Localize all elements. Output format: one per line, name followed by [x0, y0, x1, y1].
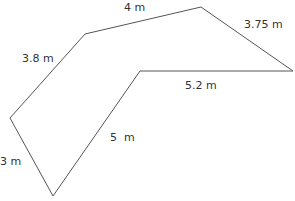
polygon-diagram: 4 m 3.75 m 3.8 m 5.2 m 5 m 3 m: [0, 0, 295, 201]
hexagon-shape: [10, 7, 293, 196]
label-lower-left-side: 3 m: [0, 155, 21, 168]
label-inner-horizontal-side: 5.2 m: [185, 79, 217, 92]
label-inner-diagonal-side: 5 m: [110, 131, 135, 144]
label-top-right-side: 3.75 m: [244, 18, 283, 31]
label-upper-left-side: 3.8 m: [22, 52, 54, 65]
label-top-side: 4 m: [124, 1, 145, 14]
